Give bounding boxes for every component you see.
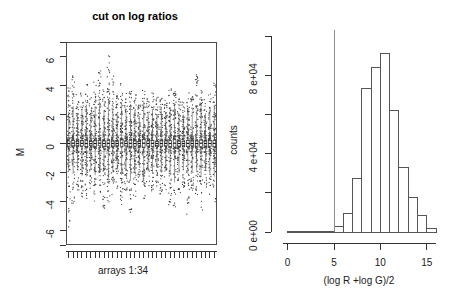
outlier-point: [143, 184, 144, 185]
outlier-point: [180, 139, 181, 140]
outlier-point: [184, 158, 185, 159]
outlier-point: [69, 132, 70, 133]
outlier-point: [206, 161, 207, 162]
outlier-point: [90, 180, 91, 181]
outlier-point: [175, 117, 176, 118]
outlier-point: [130, 194, 131, 195]
left-x-tick-marks: [69, 251, 215, 258]
outlier-point: [104, 172, 105, 173]
outlier-point: [109, 110, 110, 111]
outlier-point: [197, 113, 198, 114]
outlier-point: [160, 169, 161, 170]
outlier-point: [135, 98, 136, 99]
outlier-point: [153, 177, 154, 178]
outlier-point: [166, 122, 167, 123]
outlier-point: [168, 151, 169, 152]
outlier-point: [173, 148, 174, 149]
outlier-point: [215, 128, 216, 129]
outlier-point: [206, 151, 207, 152]
outlier-point: [121, 200, 122, 201]
outlier-point: [197, 139, 198, 140]
outlier-point: [86, 195, 87, 196]
outlier-point: [104, 97, 105, 98]
outlier-point: [181, 135, 182, 136]
outlier-point: [186, 214, 187, 215]
outlier-point: [191, 181, 192, 182]
outlier-point: [113, 159, 114, 160]
outlier-point: [104, 166, 105, 167]
boxplot-data-layer: [67, 55, 217, 227]
outlier-point: [147, 112, 148, 113]
outlier-point: [92, 119, 93, 120]
outlier-point: [95, 85, 96, 86]
outlier-point: [159, 109, 160, 110]
outlier-point: [212, 184, 213, 185]
outlier-point: [177, 174, 178, 175]
outlier-point: [69, 113, 70, 114]
outlier-point: [100, 137, 101, 138]
outlier-point: [208, 128, 209, 129]
outlier-point: [171, 137, 172, 138]
outlier-point: [178, 108, 179, 109]
outlier-point: [213, 83, 214, 84]
outlier-point: [69, 120, 70, 121]
outlier-point: [76, 130, 77, 131]
outlier-point: [164, 107, 165, 108]
outlier-point: [193, 188, 194, 189]
outlier-point: [85, 130, 86, 131]
outlier-point: [103, 91, 104, 92]
outlier-point: [144, 94, 145, 95]
histogram-bar: [353, 178, 362, 232]
outlier-point: [192, 109, 193, 110]
outlier-point: [175, 150, 176, 151]
left-y-tick-label: -6: [45, 229, 56, 238]
outlier-point: [112, 78, 113, 79]
outlier-point: [143, 198, 144, 199]
outlier-point: [131, 105, 132, 106]
outlier-point: [160, 184, 161, 185]
histogram-bar: [417, 215, 426, 232]
outlier-point: [120, 129, 121, 130]
outlier-point: [78, 140, 79, 141]
outlier-point: [202, 165, 203, 166]
outlier-point: [112, 180, 113, 181]
outlier-point: [158, 128, 159, 129]
outlier-point: [87, 136, 88, 137]
outlier-point: [95, 100, 96, 101]
outlier-point: [182, 184, 183, 185]
outlier-point: [83, 134, 84, 135]
outlier-point: [144, 175, 145, 176]
outlier-point: [166, 117, 167, 118]
outlier-point: [94, 193, 95, 194]
outlier-point: [129, 113, 130, 114]
outlier-point: [197, 119, 198, 120]
outlier-point: [148, 102, 149, 103]
outlier-point: [184, 134, 185, 135]
histogram-svg: counts 0 e+004 e+048 e+04 051015 (log R …: [225, 0, 449, 304]
outlier-point: [199, 168, 200, 169]
outlier-point: [82, 107, 83, 108]
outlier-point: [138, 180, 139, 181]
outlier-point: [71, 200, 72, 201]
outlier-point: [162, 104, 163, 105]
outlier-point: [210, 185, 211, 186]
outlier-point: [124, 125, 125, 126]
outlier-point: [160, 104, 161, 105]
outlier-point: [160, 152, 161, 153]
outlier-point: [191, 134, 192, 135]
outlier-point: [69, 154, 70, 155]
outlier-point: [153, 151, 154, 152]
outlier-point: [124, 164, 125, 165]
outlier-point: [195, 134, 196, 135]
outlier-point: [102, 89, 103, 90]
outlier-point: [209, 113, 210, 114]
outlier-point: [179, 154, 180, 155]
outlier-point: [190, 101, 191, 102]
outlier-point: [71, 131, 72, 132]
outlier-point: [120, 84, 121, 85]
outlier-point: [85, 162, 86, 163]
outlier-point: [127, 106, 128, 107]
outlier-point: [137, 152, 138, 153]
outlier-point: [105, 155, 106, 156]
outlier-point: [182, 119, 183, 120]
